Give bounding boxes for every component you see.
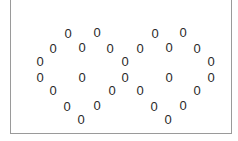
zero-glyph: 0 [48,84,58,98]
zero-glyph: 0 [63,27,73,41]
zero-glyph: 0 [35,71,45,85]
zero-glyph: 0 [92,26,102,40]
zero-glyph: 0 [178,26,188,40]
zero-glyph: 0 [76,113,86,127]
zero-glyph: 0 [120,71,130,85]
zero-glyph: 0 [92,99,102,113]
zero-glyph: 0 [135,42,145,56]
zero-glyph: 0 [135,84,145,98]
zero-glyph: 0 [164,41,174,55]
zero-glyph: 0 [35,55,45,69]
zero-glyph: 0 [105,42,115,56]
zero-glyph: 0 [149,100,159,114]
zero-glyph: 0 [150,27,160,41]
zero-glyph: 0 [77,41,87,55]
zero-glyph: 0 [164,71,174,85]
zero-glyph: 0 [48,42,58,56]
zero-glyph: 0 [120,55,130,69]
zero-glyph: 0 [178,99,188,113]
zero-glyph: 0 [62,100,72,114]
zero-glyph: 0 [107,84,117,98]
zero-glyph: 0 [163,113,173,127]
zero-glyph: 0 [206,55,216,69]
zero-glyph: 0 [192,84,202,98]
zero-glyph: 0 [206,71,216,85]
zero-glyph: 0 [192,42,202,56]
zero-glyph: 0 [77,71,87,85]
